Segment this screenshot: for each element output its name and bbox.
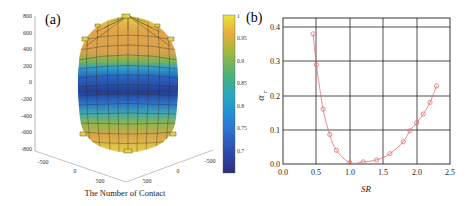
z-tick: -200 — [21, 96, 32, 102]
y-tick: 0.4 — [270, 23, 280, 32]
colorbar-ticks: 1 0.95 0.9 0.85 0.8 0.75 0.7 — [237, 13, 247, 154]
b-ylabel-sub: r — [262, 90, 268, 93]
data-markers — [311, 32, 439, 165]
z-tick: 600 — [23, 30, 32, 36]
colorbar — [223, 15, 235, 173]
x-tick: 2.0 — [412, 168, 422, 177]
z-tick: -400 — [21, 113, 32, 119]
colorbar-tick: 0.75 — [237, 125, 247, 131]
z-tick: 0 — [29, 79, 32, 85]
colorbar-tick: 0.8 — [237, 103, 244, 109]
floor-tick: 0 — [177, 168, 180, 174]
floor-tick: -500 — [38, 159, 49, 165]
colorbar-tick: 0.9 — [237, 58, 244, 64]
x-tick: 0.0 — [278, 168, 288, 177]
y-tick: 0.3 — [270, 57, 280, 66]
grid — [283, 18, 450, 164]
plot-frame — [283, 18, 450, 164]
b-ylabel: α r — [255, 90, 268, 101]
z-tick: 400 — [23, 46, 32, 52]
floor-axis-left — [35, 151, 126, 182]
figure: (a) 800 600 400 200 0 -200 -400 -600 -80… — [0, 0, 472, 206]
colorbar-tick: 1 — [237, 13, 240, 19]
panel-b: (b) 0.0 0.1 0.2 0.3 0.4 0.0 0.5 1.0 1.5 — [246, 10, 455, 194]
z-axis-ticks: 800 600 400 200 0 -200 -400 -600 -800 — [21, 13, 32, 152]
floor-tick: -500 — [205, 158, 216, 164]
fit-curve — [313, 34, 437, 164]
x-axis-ticks: 0.0 0.5 1.0 1.5 2.0 2.5 — [278, 168, 455, 177]
panel-a-label: (a) — [45, 12, 61, 28]
surface-3d — [76, 14, 180, 156]
colorbar-tick: 0.7 — [237, 148, 244, 154]
panel-b-label: (b) — [246, 10, 263, 26]
x-tick: 0.5 — [311, 168, 321, 177]
colorbar-tick: 0.85 — [237, 80, 247, 86]
a-xlabel: The Number of Contact — [85, 188, 167, 198]
y-tick: 0.2 — [270, 92, 280, 101]
floor-ticks: -500 0 500 500 0 -500 — [38, 158, 216, 184]
colorbar-tick: 0.95 — [237, 35, 247, 41]
z-tick: 800 — [23, 13, 32, 19]
floor-tick: 0 — [74, 168, 77, 174]
b-xlabel: SR — [361, 184, 372, 194]
x-tick: 2.5 — [445, 168, 455, 177]
panel-a: (a) 800 600 400 200 0 -200 -400 -600 -80… — [21, 12, 247, 198]
floor-tick: 500 — [96, 178, 105, 184]
b-ylabel-main: α — [255, 95, 266, 101]
z-tick: -600 — [21, 129, 32, 135]
floor-axis-right — [126, 150, 213, 182]
z-tick: 200 — [23, 63, 32, 69]
x-tick: 1.0 — [345, 168, 355, 177]
y-axis-ticks: 0.0 0.1 0.2 0.3 0.4 — [270, 23, 280, 169]
z-tick: -800 — [21, 146, 32, 152]
x-tick: 1.5 — [378, 168, 388, 177]
floor-tick: 500 — [143, 178, 152, 184]
y-tick: 0.1 — [270, 126, 280, 135]
